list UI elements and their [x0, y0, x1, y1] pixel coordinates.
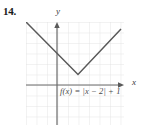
plot-area [26, 22, 124, 125]
problem-number: 14. [3, 5, 16, 17]
figure-container: 14. y x f(x) = |x − 2| + 1 [0, 0, 143, 132]
y-axis-arrowhead [54, 22, 59, 28]
axis-label-x: x [132, 77, 136, 87]
function-curve [26, 22, 121, 75]
function-equation-label: f(x) = |x − 2| + 1 [60, 86, 121, 96]
graph [26, 22, 124, 125]
axis-label-y: y [56, 6, 60, 16]
